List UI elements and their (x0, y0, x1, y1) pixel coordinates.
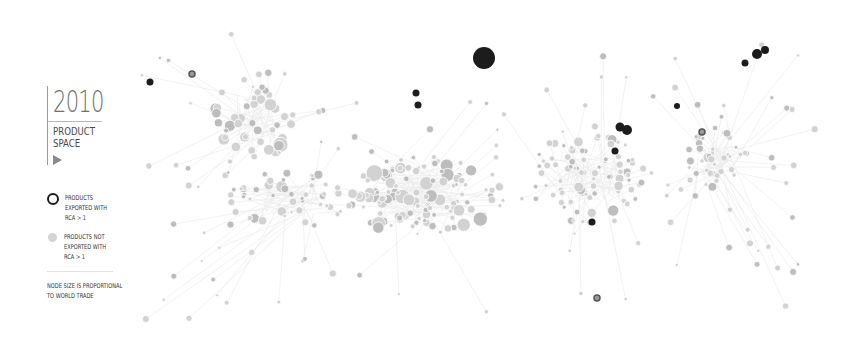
title-block: 2010 PRODUCT SPACE (47, 86, 127, 165)
legend-rca-text: PRODUCTS EXPORTED WITH RCA > 1 (65, 193, 107, 223)
legend-rca-line-2: EXPORTED WITH (65, 203, 107, 213)
note-line-1: NODE SIZE IS PROPORTIONAL (47, 281, 117, 291)
rca-ring-icon (47, 193, 59, 205)
legend-non-line-2: EXPORTED WITH (64, 242, 106, 252)
legend-non-line-3: RCA > 1 (64, 252, 106, 262)
legend-item-rca: PRODUCTS EXPORTED WITH RCA > 1 (47, 193, 137, 223)
note-line-2: TO WORLD TRADE (47, 291, 117, 301)
title-line-2: SPACE (53, 138, 111, 150)
year-label: 2010 (53, 86, 105, 118)
play-triangle-icon[interactable] (53, 155, 62, 165)
legend-rca-line-1: PRODUCTS (65, 193, 107, 203)
non-rca-disc-icon (48, 233, 57, 242)
legend-item-non-rca: PRODUCTS NOT EXPORTED WITH RCA > 1 (47, 232, 137, 262)
graph-nodes (140, 32, 818, 323)
legend-non-line-1: PRODUCTS NOT (64, 232, 106, 242)
node-size-note: NODE SIZE IS PROPORTIONAL TO WORLD TRADE (47, 281, 117, 301)
legend: PRODUCTS EXPORTED WITH RCA > 1 PRODUCTS … (47, 193, 137, 301)
legend-non-rca-text: PRODUCTS NOT EXPORTED WITH RCA > 1 (64, 232, 106, 262)
title-panel: 2010 PRODUCT SPACE (47, 86, 127, 165)
legend-divider (47, 271, 113, 272)
title-divider (48, 121, 102, 122)
legend-rca-line-3: RCA > 1 (65, 213, 107, 223)
